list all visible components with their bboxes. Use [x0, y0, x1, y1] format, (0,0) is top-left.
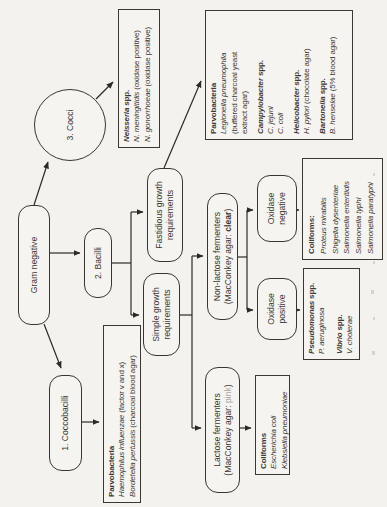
- coliforms-lactose-title: Coliforms: [259, 381, 269, 469]
- node-oxidase-negative: Oxidase negative: [257, 175, 297, 242]
- arrow-gram-to-coccobacilli: [44, 324, 61, 368]
- result-box-neisseria: Neisseria spp. N. meningitidis (oxidase …: [118, 9, 160, 148]
- page-bleed-artifact: [373, 173, 375, 176]
- neisseria-title: Neisseria spp.: [122, 15, 132, 142]
- lactose-agar-result: pink: [223, 387, 233, 403]
- arrow-gram-to-cocci: [34, 162, 48, 205]
- coli-line: C. coli: [276, 16, 286, 134]
- lactose-line2: (MacConkey agar: pink): [223, 384, 234, 475]
- result-box-coliforms-lactose: Coliforms Escherichia coli Klebsiella pn…: [255, 375, 290, 475]
- escherichia-line: Escherichia coli: [269, 381, 279, 469]
- node-bacilli-label: 2. Bacilli: [93, 247, 104, 279]
- fastidious-growth-line2: requirements: [165, 190, 176, 240]
- fastidious-growth-line1: Fastidious growth: [154, 181, 165, 248]
- legionella-agar-line1: (buffered charcoal yeast: [230, 16, 240, 134]
- haemophilus-line: Haemophilus influenzae (factor v and x): [117, 331, 127, 497]
- node-cocci: 3. Cocci: [34, 89, 106, 161]
- henselae-line: B. henselae (5% blood agar): [328, 16, 338, 134]
- jejuni-line: C. jejuni: [266, 16, 276, 134]
- node-lactose-fermenters: Lactose fermenters (MacConkey agar: pink…: [205, 367, 240, 493]
- salmonella-paratyphi-line: Salmonella paratyphi: [365, 164, 377, 254]
- node-fastidious-growth: Fastidious growth requirements: [147, 168, 183, 262]
- coliforms-nonlactose-title: Coliforms:: [306, 164, 318, 254]
- klebsiella-line: Klebsiella pneumoniae: [280, 381, 290, 469]
- lactose-agar-prefix: (MacConkey agar:: [223, 403, 233, 476]
- node-oxidase-positive: Oxidase positive: [257, 278, 297, 340]
- oxidase-negative-line1: Oxidase: [266, 193, 277, 225]
- nonlactose-agar-suffix: ): [223, 209, 233, 212]
- helicobacter-title: Helicobacter spp.: [292, 16, 302, 134]
- page-bleed-artifact: [372, 351, 375, 355]
- pylori-line: H. pylori (chocolate agar): [302, 16, 312, 134]
- simple-growth-line2: requirements: [162, 289, 173, 339]
- oxidase-negative-line2: negative: [277, 192, 288, 225]
- flowchart-canvas: Gram negative 1. Coccobacilli 2. Bacilli…: [0, 0, 387, 507]
- result-box-coliforms-nonlactose: Coliforms: Proteus mirabilis Shigella dy…: [302, 158, 383, 260]
- shigella-line: Shigella dysenteriae: [330, 164, 342, 254]
- lactose-agar-suffix: ): [223, 384, 233, 387]
- campylobacter-title: Campylobacter spp.: [256, 16, 266, 134]
- bordetella-line: Bordetella pertussis (charcoal blood aga…: [128, 331, 138, 497]
- legionella-agar-line2: extract agar): [240, 16, 250, 134]
- nonlactose-line2: (MacConkey agar: clear): [223, 209, 234, 305]
- parvobacteria-fastidious-title: Parvobacteria: [209, 16, 219, 134]
- node-simple-growth: Simple growth requirements: [143, 273, 180, 356]
- simple-growth-line1: Simple growth: [151, 287, 162, 341]
- bartonella-title: Bartonella spp.: [318, 16, 328, 134]
- salmonella-typhi-line: Salmonella typhi: [353, 164, 365, 254]
- nonlactose-line1: Non-lactose fermenters: [212, 212, 223, 301]
- scanned-page: Gram negative 1. Coccobacilli 2. Bacilli…: [0, 0, 387, 507]
- parvobacteria-coccobacilli-title: Parvobacteria: [107, 331, 117, 497]
- page-bleed-artifact: [373, 261, 375, 264]
- page-bleed-artifact: [372, 225, 374, 229]
- oxidase-positive-line2: positive: [277, 294, 288, 323]
- page-bleed-artifact: [373, 317, 375, 320]
- legionella-line: Legionella pneumophila: [219, 16, 229, 134]
- vibrio-title: Vibrio spp.: [335, 274, 345, 354]
- pseudomonas-title: Pseudomonas spp.: [307, 274, 317, 354]
- aeruginosa-line: P. aeruginosa: [317, 274, 327, 354]
- result-box-pseudomonas-vibrio: Pseudomonas spp. P. aeruginosa Vibrio sp…: [303, 268, 360, 360]
- meningitidis-line: N. meningitidis (oxidase positive): [132, 15, 142, 142]
- arrow-cocci-to-neisseria: [96, 82, 113, 99]
- nonlactose-agar-result: clear: [223, 212, 233, 232]
- result-box-parvobacteria-fastidious: Parvobacteria Legionella pneumophila (bu…: [205, 10, 353, 140]
- nonlactose-agar-prefix: (MacConkey agar:: [223, 232, 233, 305]
- node-cocci-label: 3. Cocci: [65, 109, 75, 140]
- gonorrhoeae-line: N. gonorrhoeae (oxidase positive): [143, 15, 153, 142]
- proteus-line: Proteus mirabilis: [318, 164, 330, 254]
- page-bleed-artifact: [371, 290, 374, 294]
- arrow-fastidious-to-parvobacteria: [164, 81, 201, 168]
- result-box-parvobacteria-coccobacilli: Parvobacteria Haemophilus influenzae (fa…: [103, 325, 141, 503]
- node-gram-negative: Gram negative: [18, 205, 50, 325]
- node-gram-negative-label: Gram negative: [29, 237, 40, 293]
- cholerae-line: V. cholerae: [345, 274, 355, 354]
- lactose-line1: Lactose fermenters: [212, 393, 223, 467]
- node-coccobacilli: 1. Coccobacilli: [49, 375, 82, 471]
- oxidase-positive-line1: Oxidase: [266, 293, 277, 325]
- salmonella-enteritidis-line: Salmonella enteritidis: [341, 164, 353, 254]
- node-bacilli: 2. Bacilli: [84, 228, 112, 298]
- node-nonlactose-fermenters: Non-lactose fermenters (MacConkey agar: …: [207, 193, 238, 320]
- node-coccobacilli-label: 1. Coccobacilli: [60, 395, 71, 450]
